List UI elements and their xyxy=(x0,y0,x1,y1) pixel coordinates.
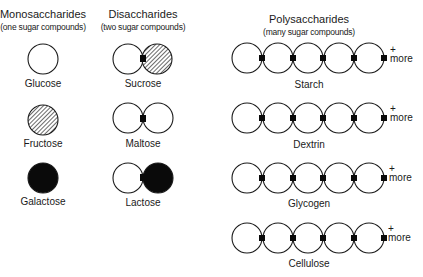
cellulose-chain xyxy=(232,223,387,253)
fructose-unit xyxy=(28,105,58,135)
galactose-label: Galactose xyxy=(20,196,65,207)
galactose-unit xyxy=(28,163,58,193)
poly-subtitle: (many sugar compounds) xyxy=(263,27,355,37)
glucose-unit xyxy=(28,44,58,74)
cellulose-label: Cellulose xyxy=(288,258,329,269)
mono-subtitle: (one sugar compounds) xyxy=(0,22,86,32)
maltose-label: Maltose xyxy=(125,138,160,149)
starch-more-note: +more xyxy=(390,45,413,63)
dextrin-more-note: +more xyxy=(390,104,413,122)
dextrin-chain xyxy=(232,103,387,133)
di-title: Disaccharides xyxy=(108,8,177,20)
glycogen-chain xyxy=(232,163,387,193)
lactose-molecule xyxy=(113,163,173,193)
di-subtitle: (two sugar compounds) xyxy=(101,22,186,32)
sucrose-molecule xyxy=(113,44,172,74)
fructose-label: Fructose xyxy=(24,138,63,149)
starch-label: Starch xyxy=(295,79,324,90)
glycogen-label: Glycogen xyxy=(288,198,330,209)
diagram-canvas xyxy=(0,0,423,277)
glucose-label: Glucose xyxy=(25,78,62,89)
starch-chain xyxy=(232,43,387,73)
sucrose-label: Sucrose xyxy=(125,78,162,89)
maltose-molecule xyxy=(113,103,173,133)
cellulose-more-note: +more xyxy=(388,224,411,242)
dextrin-label: Dextrin xyxy=(293,139,325,150)
lactose-label: Lactose xyxy=(125,197,160,208)
mono-title: Monosaccharides xyxy=(0,8,86,20)
poly-title: Polysaccharides xyxy=(269,13,349,25)
glycogen-more-note: +more xyxy=(389,164,412,182)
